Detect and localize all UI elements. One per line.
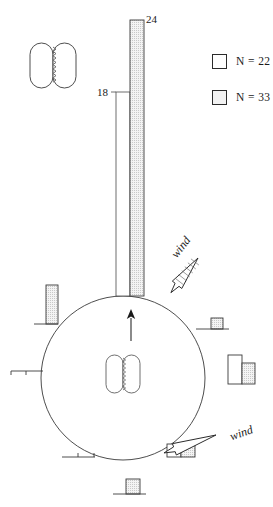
bar-label-white-max: 18 (97, 86, 108, 98)
axis-tick-southwest (62, 453, 95, 457)
legend-label-stippled: N = 33 (236, 91, 270, 103)
bar-east-stippled (242, 363, 255, 384)
bar-label-stippled-max: 24 (146, 13, 157, 25)
legend-item-white: N = 22 (212, 50, 270, 72)
bar-east-white (228, 355, 242, 384)
bar-north-white (116, 92, 130, 296)
legend-swatch-white-square (212, 54, 227, 69)
legend-swatch-stippled-square (212, 90, 227, 105)
specimen-inset-top-left (30, 43, 76, 88)
bar-ene-stippled (211, 318, 223, 329)
legend-item-stippled: N = 33 (212, 86, 270, 108)
legend: N = 22 N = 33 (212, 50, 270, 122)
center-lobe-right (123, 355, 140, 393)
legend-label-white: N = 22 (236, 55, 270, 67)
bar-north-stippled (130, 20, 144, 296)
center-lobe-left (106, 355, 123, 393)
axis-tick-west (11, 371, 43, 375)
inset-lobe-left (30, 43, 53, 88)
bar-nw-stippled (46, 285, 58, 324)
wind-arrow-upper (166, 254, 203, 296)
inset-lobe-right (53, 43, 76, 88)
bar-south-stippled (126, 479, 140, 494)
